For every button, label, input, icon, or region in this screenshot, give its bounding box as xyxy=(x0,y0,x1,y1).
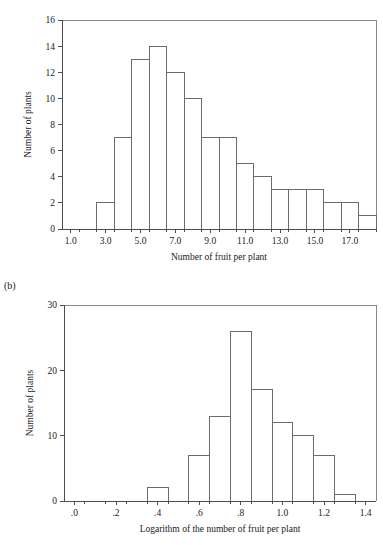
y-axis-ticks: 0246810121416 xyxy=(46,15,63,234)
x-tick-label: .8 xyxy=(237,508,244,518)
x-tick-label: 17.0 xyxy=(342,236,359,246)
histogram-bar xyxy=(132,59,149,229)
x-tick-label: 1.0 xyxy=(276,508,288,518)
histogram-bar xyxy=(271,190,288,229)
histogram-bar xyxy=(147,488,168,501)
y-tick-label: 16 xyxy=(46,15,56,25)
chart-a-canvas: 02468101214161.03.05.07.09.011.013.015.0… xyxy=(0,0,383,272)
histogram-bar xyxy=(359,216,376,229)
y-axis-title: Number of plants xyxy=(23,91,33,158)
histogram-bar xyxy=(236,164,253,229)
histogram-bar xyxy=(289,190,306,229)
histogram-bar xyxy=(293,436,314,501)
histogram-bar xyxy=(306,190,323,229)
y-tick-label: 6 xyxy=(50,146,55,156)
histogram-bar xyxy=(167,72,184,229)
histogram-bar xyxy=(314,455,335,501)
x-tick-label: 1.2 xyxy=(318,508,330,518)
x-tick-label: 13.0 xyxy=(272,236,289,246)
histogram-bar xyxy=(251,390,272,501)
histogram-bar xyxy=(219,138,236,229)
histogram-bar xyxy=(341,203,358,229)
x-tick-label: .6 xyxy=(196,508,203,518)
y-tick-label: 2 xyxy=(50,198,55,208)
histogram-bar xyxy=(149,46,166,229)
histogram-bar xyxy=(254,177,271,229)
x-axis-title: Logarithm of the number of fruit per pla… xyxy=(140,524,301,534)
y-tick-label: 20 xyxy=(48,366,58,376)
x-tick-label: 15.0 xyxy=(307,236,324,246)
histogram-bar xyxy=(114,138,131,229)
histogram-bar xyxy=(210,416,231,501)
y-tick-label: 0 xyxy=(50,224,55,234)
y-axis-ticks: 0102030 xyxy=(48,300,65,506)
x-tick-label: .4 xyxy=(154,508,161,518)
y-tick-label: 14 xyxy=(46,42,56,52)
x-axis-title: Number of fruit per plant xyxy=(171,252,267,262)
histogram-bar xyxy=(230,331,251,501)
y-tick-label: 12 xyxy=(46,68,56,78)
y-tick-label: 30 xyxy=(48,300,58,310)
chart-b-canvas: 0102030.0.2.4.6.81.01.21.4Logarithm of t… xyxy=(0,272,383,545)
x-tick-label: 1.0 xyxy=(65,236,77,246)
panel-label-b: (b) xyxy=(4,280,16,291)
x-tick-label: .2 xyxy=(112,508,119,518)
histogram-bar xyxy=(202,138,219,229)
histogram-bar xyxy=(334,494,355,501)
x-tick-label: 5.0 xyxy=(135,236,147,246)
x-tick-label: 11.0 xyxy=(237,236,254,246)
histogram-bar xyxy=(97,203,114,229)
bars-group xyxy=(97,46,376,229)
histogram-bar xyxy=(184,98,201,229)
y-axis-title: Number of plants xyxy=(25,369,35,436)
x-axis-ticks: 1.03.05.07.09.011.013.015.017.0 xyxy=(65,229,359,246)
x-tick-label: 9.0 xyxy=(204,236,216,246)
histogram-panel-a: 02468101214161.03.05.07.09.011.013.015.0… xyxy=(0,0,383,272)
x-axis-ticks: .0.2.4.6.81.01.21.4 xyxy=(71,501,372,518)
y-tick-label: 10 xyxy=(46,94,56,104)
x-tick-label: 7.0 xyxy=(169,236,181,246)
y-tick-label: 4 xyxy=(50,172,55,182)
x-tick-label: 3.0 xyxy=(100,236,112,246)
histogram-bar xyxy=(272,423,293,501)
y-tick-label: 8 xyxy=(50,120,55,130)
x-tick-label: .0 xyxy=(71,508,78,518)
x-tick-label: 1.4 xyxy=(360,508,372,518)
y-tick-label: 0 xyxy=(52,496,57,506)
histogram-bar xyxy=(324,203,341,229)
histogram-bar xyxy=(189,455,210,501)
bars-group xyxy=(147,331,355,501)
histogram-panel-b: (b) 0102030.0.2.4.6.81.01.21.4Logarithm … xyxy=(0,272,383,545)
y-tick-label: 10 xyxy=(48,431,58,441)
